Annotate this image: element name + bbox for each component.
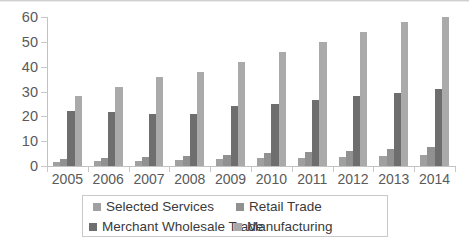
legend-label: Manufacturing [247, 220, 333, 234]
bar-chart: 0102030405060 20052006200720082009201020… [0, 0, 469, 248]
x-axis-label: 2013 [373, 172, 414, 186]
bar [67, 111, 74, 166]
bar [223, 155, 230, 166]
bar-group [414, 17, 455, 166]
legend-item-retail-trade[interactable]: Retail Trade [236, 200, 322, 214]
bar [279, 52, 286, 166]
x-axis-label: 2010 [251, 172, 292, 186]
bar [353, 96, 360, 166]
bar-group [129, 17, 170, 166]
bar [238, 62, 245, 166]
x-axis-label: 2006 [88, 172, 129, 186]
bar [216, 159, 223, 166]
bar [420, 155, 427, 166]
y-axis-label: 40 [6, 60, 38, 75]
legend-item-manufacturing[interactable]: Manufacturing [234, 220, 333, 234]
y-axis-label: 20 [6, 109, 38, 124]
bar-group [88, 17, 129, 166]
bar [435, 89, 442, 166]
bar-group [210, 17, 251, 166]
bar [401, 22, 408, 166]
legend-label: Selected Services [106, 200, 214, 214]
x-axis-label: 2012 [333, 172, 374, 186]
bar [360, 32, 367, 166]
legend-swatch-icon [234, 223, 242, 231]
bar-group [373, 17, 414, 166]
bar [298, 158, 305, 166]
bar [94, 161, 101, 166]
y-axis-label: 60 [6, 10, 38, 25]
bar [394, 93, 401, 167]
bar [319, 42, 326, 166]
bar [142, 157, 149, 166]
plot-area [47, 17, 455, 166]
bar [53, 162, 60, 166]
legend-swatch-icon [236, 203, 244, 211]
bar-group [333, 17, 374, 166]
bar [183, 156, 190, 166]
bar [231, 106, 238, 166]
bar [149, 114, 156, 166]
bar-group [169, 17, 210, 166]
bar [115, 87, 122, 166]
bar-group [47, 17, 88, 166]
bar [257, 158, 264, 166]
x-axis-label: 2005 [47, 172, 88, 186]
x-axis-label: 2011 [292, 172, 333, 186]
bar [135, 161, 142, 166]
legend-row: Merchant Wholesale Trade Manufacturing [83, 216, 387, 237]
legend-swatch-icon [93, 203, 101, 211]
bar [379, 156, 386, 166]
bar [197, 72, 204, 166]
x-axis-tick [455, 167, 456, 172]
x-axis-label: 2014 [414, 172, 455, 186]
bar [101, 158, 108, 166]
y-axis-label: 50 [6, 35, 38, 50]
legend-label: Retail Trade [249, 200, 322, 214]
chart-legend: Selected Services Retail Trade Merchant … [82, 195, 388, 237]
bar [387, 149, 394, 166]
bar-group [292, 17, 333, 166]
x-axis-label: 2008 [169, 172, 210, 186]
bar [305, 152, 312, 166]
bar [75, 96, 82, 166]
legend-row: Selected Services Retail Trade [83, 196, 387, 217]
x-axis-label: 2007 [129, 172, 170, 186]
bar [175, 160, 182, 166]
bar-group [251, 17, 292, 166]
bar [427, 147, 434, 166]
bar [190, 114, 197, 166]
y-axis-label: 10 [6, 134, 38, 149]
x-axis-label: 2009 [210, 172, 251, 186]
bar [60, 159, 67, 166]
bar [346, 151, 353, 166]
bar [312, 100, 319, 166]
y-axis-label: 30 [6, 85, 38, 100]
bar [442, 17, 449, 166]
bar [264, 153, 271, 166]
legend-item-selected-services[interactable]: Selected Services [93, 200, 214, 214]
bar [108, 112, 115, 166]
legend-swatch-icon [89, 223, 97, 231]
top-divider [0, 0, 469, 2]
y-axis-label: 0 [6, 159, 38, 174]
bar [156, 77, 163, 166]
bar [339, 157, 346, 166]
bar [271, 104, 278, 166]
